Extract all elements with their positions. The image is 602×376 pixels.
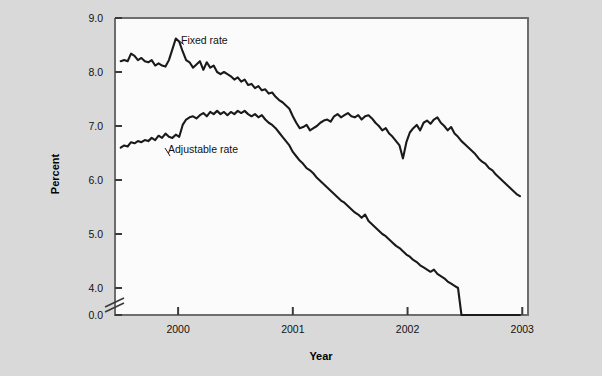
x-tick-label-2001: 2001: [281, 323, 305, 335]
x-tick-label-2003: 2003: [511, 323, 535, 335]
y-tick-label-8.0: 8.0: [88, 66, 103, 78]
y-tick-label-4.0: 4.0: [88, 282, 103, 294]
adjustable-rate-label: Adjustable rate: [168, 143, 238, 155]
y-tick-label-5.0: 5.0: [88, 228, 103, 240]
x-tick-label-2002: 2002: [396, 323, 420, 335]
x-tick-label-2000: 2000: [166, 323, 190, 335]
y-tick-label-9.0: 9.0: [88, 12, 103, 24]
mortgage-rates-line-chart: 0.04.05.06.07.08.09.0 2000200120022003 F…: [0, 0, 602, 376]
y-tick-label-6.0: 6.0: [88, 174, 103, 186]
y-tick-label-0.0: 0.0: [88, 309, 103, 321]
y-axis-title: Percent: [49, 153, 61, 194]
x-axis-title: Year: [309, 350, 333, 362]
chart-figure: 0.04.05.06.07.08.09.0 2000200120022003 F…: [0, 0, 602, 376]
y-tick-label-7.0: 7.0: [88, 120, 103, 132]
fixed-rate-label: Fixed rate: [181, 34, 228, 46]
plot-area-background: [115, 18, 528, 315]
